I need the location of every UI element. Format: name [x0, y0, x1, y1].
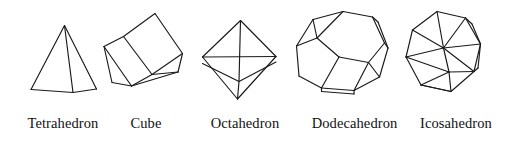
label-octahedron: Octahedron [196, 113, 294, 133]
label-cube: Cube [122, 113, 170, 133]
cube-drawing [104, 14, 183, 87]
label-tetrahedron: Tetrahedron [13, 113, 113, 133]
solid-labels-row: Tetrahedron Cube Octahedron Dodecahedron… [0, 113, 508, 137]
icosahedron-drawing [406, 12, 481, 92]
octahedron-drawing [203, 21, 277, 100]
dodecahedron-drawing [297, 12, 389, 95]
label-dodecahedron: Dodecahedron [296, 113, 413, 133]
tetrahedron-drawing [31, 26, 97, 93]
platonic-solids-figure: Tetrahedron Cube Octahedron Dodecahedron… [0, 0, 508, 144]
label-icosahedron: Icosahedron [404, 113, 508, 133]
